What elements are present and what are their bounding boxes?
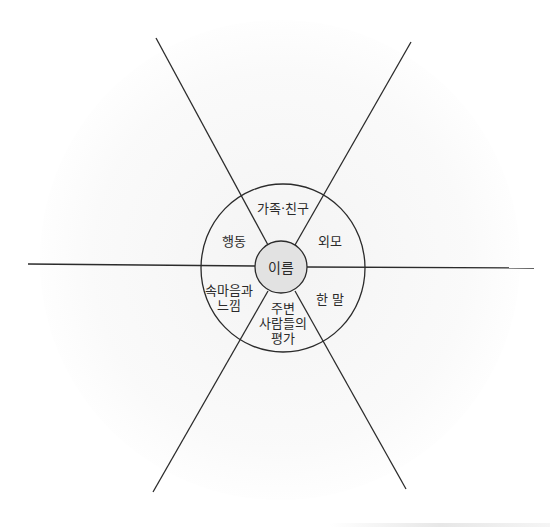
- line-top-left: [156, 38, 268, 245]
- segment-label-line: 평가: [259, 331, 307, 346]
- segment-label-line: 행동: [222, 234, 246, 249]
- segment-inner-thoughts: 속마음과 느낌: [205, 283, 253, 313]
- segment-label-line: 가족·친구: [257, 201, 309, 216]
- diagram-canvas: 이름 가족·친구 외모 행동 속마음과 느낌 한 말 주변 사람들의 평가: [0, 0, 554, 529]
- segment-label-line: 사람들의: [259, 316, 307, 331]
- segment-label-line: 느낌: [205, 298, 253, 313]
- segment-appearance: 외모: [318, 234, 342, 249]
- segment-words-spoken: 한 말: [316, 292, 344, 307]
- center-label: 이름: [268, 261, 294, 276]
- line-left: [28, 264, 255, 266]
- segment-label-line: 한 말: [316, 292, 344, 307]
- line-right: [307, 267, 534, 268]
- line-bottom-left: [153, 291, 268, 492]
- segment-label-line: 외모: [318, 234, 342, 249]
- segment-behavior: 행동: [222, 234, 246, 249]
- segment-label-line: 속마음과: [205, 283, 253, 298]
- segment-others-evaluation: 주변 사람들의 평가: [259, 301, 307, 346]
- line-bottom-right: [295, 291, 406, 489]
- segment-family-friends: 가족·친구: [257, 201, 309, 216]
- line-top-right: [295, 42, 411, 245]
- segment-label-line: 주변: [259, 301, 307, 316]
- center-label-text: 이름: [268, 261, 294, 276]
